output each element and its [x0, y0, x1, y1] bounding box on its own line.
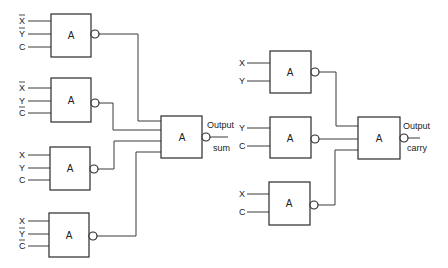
input-label-c: C	[19, 175, 26, 185]
input-label-x: X	[239, 58, 245, 68]
input-label-x: X	[19, 216, 25, 226]
inverter-bubble-icon	[91, 99, 99, 107]
inverter-bubble-icon	[400, 134, 408, 142]
input-label-c: C	[239, 207, 246, 217]
input-label-y: Y	[19, 96, 25, 106]
carry-input-gate-2: Y C A	[239, 117, 319, 158]
sum-input-gate-3: X Y C A	[19, 147, 98, 190]
carry-input-gate-1: X Y A	[239, 51, 319, 93]
gate-label: A	[179, 132, 186, 143]
gate-label: A	[66, 230, 73, 241]
input-label-x: X	[239, 189, 245, 199]
gate-label: A	[68, 95, 75, 106]
input-label-y-bar: Y	[19, 29, 25, 39]
gate-label: A	[287, 133, 294, 144]
gate-label: A	[68, 30, 75, 41]
carry-label: carry	[407, 143, 427, 153]
input-label-c-bar: C	[19, 241, 26, 251]
input-label-x: X	[19, 150, 25, 160]
inverter-bubble-icon	[91, 30, 99, 38]
sum-label: sum	[213, 143, 230, 153]
carry-wires	[318, 72, 358, 205]
sum-input-gate-4: X Y C A	[19, 213, 97, 257]
inverter-bubble-icon	[202, 133, 210, 141]
inverter-bubble-icon	[89, 232, 97, 240]
input-label-y: Y	[239, 123, 245, 133]
inverter-bubble-icon	[311, 68, 319, 76]
inverter-bubble-icon	[311, 135, 319, 143]
carry-input-gate-3: X C A	[239, 182, 318, 225]
input-label-c: C	[19, 42, 26, 52]
input-label-x-bar: X	[19, 83, 25, 93]
gate-label: A	[287, 67, 294, 78]
gate-label: A	[286, 198, 293, 209]
input-label-x-bar: X	[19, 16, 25, 26]
sum-input-gate-2: X Y C A	[19, 78, 99, 122]
output-label: Output	[403, 121, 431, 131]
gate-label: A	[67, 163, 74, 174]
sum-input-gate-1: X Y C A	[19, 14, 99, 57]
sum-output-gate: A Output sum	[161, 116, 235, 158]
input-label-y: Y	[239, 76, 245, 86]
gate-label: A	[376, 133, 383, 144]
inverter-bubble-icon	[90, 165, 98, 173]
input-label-y-bar: Y	[19, 229, 25, 239]
input-label-y: Y	[19, 163, 25, 173]
inverter-bubble-icon	[310, 201, 318, 209]
input-label-c-bar: C	[19, 108, 26, 118]
carry-output-gate: A Output carry	[358, 117, 431, 159]
sum-wires	[97, 34, 161, 236]
input-label-c: C	[239, 141, 246, 151]
logic-diagram: X Y C A X Y C A X Y C A X	[0, 0, 448, 268]
output-label: Output	[207, 120, 235, 130]
